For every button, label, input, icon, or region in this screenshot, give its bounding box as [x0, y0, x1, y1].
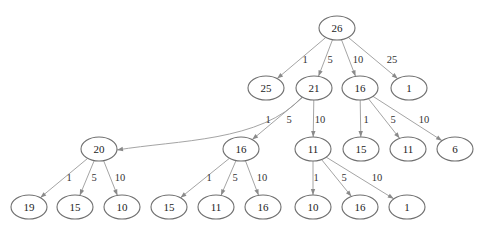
- arrowhead-icon: [117, 147, 123, 151]
- arrowhead-icon: [311, 131, 315, 137]
- tree-node: 15: [151, 195, 187, 219]
- tree-node: 11: [390, 137, 426, 161]
- tree-diagram: 15102515101510151015101510 2625211612016…: [0, 0, 484, 237]
- arrowhead-icon: [221, 189, 225, 195]
- tree-node: 21: [296, 76, 332, 100]
- edge-label: 10: [315, 114, 326, 125]
- arrowhead-icon: [254, 189, 258, 195]
- node-label: 21: [309, 82, 320, 94]
- node-label: 19: [24, 201, 36, 213]
- edge-label: 1: [302, 54, 307, 65]
- node-label: 10: [308, 201, 320, 213]
- edge-n7-n18: [322, 160, 352, 197]
- node-label: 20: [94, 143, 106, 155]
- edge-label: 10: [419, 114, 430, 125]
- edge-label: 10: [353, 54, 364, 65]
- node-label: 26: [332, 22, 344, 34]
- arrowhead-icon: [388, 194, 394, 199]
- node-label: 16: [355, 201, 367, 213]
- edge-label: 1: [66, 172, 71, 183]
- edge-label: 1: [363, 114, 368, 125]
- arrowhead-icon: [436, 136, 442, 141]
- tree-node: 10: [295, 195, 331, 219]
- tree-node: 16: [223, 137, 259, 161]
- node-label: 25: [261, 82, 273, 94]
- arrowhead-icon: [318, 70, 322, 76]
- tree-node: 10: [104, 195, 140, 219]
- edge-line: [252, 97, 303, 139]
- edge-n2-n6: [252, 97, 303, 139]
- edge-line: [322, 160, 352, 197]
- tree-node: 15: [57, 195, 93, 219]
- tree-node: 11: [295, 137, 331, 161]
- edge-label: 5: [91, 172, 96, 183]
- tree-node: 16: [245, 195, 281, 219]
- edge-label: 10: [257, 172, 268, 183]
- tree-node: 6: [437, 137, 473, 161]
- tree-node: 26: [319, 16, 355, 40]
- node-label: 15: [356, 143, 368, 155]
- arrowhead-icon: [80, 189, 84, 195]
- tree-node: 16: [342, 76, 378, 100]
- node-label: 1: [406, 82, 412, 94]
- arrowhead-icon: [351, 70, 355, 76]
- edge-label: 1: [313, 172, 318, 183]
- tree-node: 1: [389, 195, 425, 219]
- edge-line: [117, 97, 302, 150]
- tree-node: 20: [81, 137, 117, 161]
- node-label: 15: [70, 201, 82, 213]
- node-label: 10: [117, 201, 129, 213]
- tree-node: 1: [391, 76, 427, 100]
- edge-label: 1: [206, 172, 211, 183]
- tree-node: 11: [198, 195, 234, 219]
- edge-n3-n8: [359, 100, 363, 137]
- edge-labels-layer: 15102515101510151015101510: [66, 54, 429, 183]
- edge-label: 5: [327, 54, 332, 65]
- edge-n3-n10: [373, 96, 442, 140]
- edge-label: 5: [390, 114, 395, 125]
- node-label: 1: [404, 201, 410, 213]
- tree-node: 16: [342, 195, 378, 219]
- edge-n2-n5: [117, 97, 302, 151]
- tree-node: 15: [343, 137, 379, 161]
- edge-label: 10: [115, 172, 126, 183]
- node-label: 11: [403, 143, 414, 155]
- arrowhead-icon: [113, 189, 117, 195]
- edge-label: 25: [387, 54, 398, 65]
- nodes-layer: 2625211612016111511619151015111610161: [11, 16, 473, 219]
- node-label: 11: [211, 201, 222, 213]
- arrowhead-icon: [311, 189, 315, 195]
- edge-label: 1: [265, 114, 270, 125]
- edge-label: 5: [232, 172, 237, 183]
- node-label: 15: [164, 201, 176, 213]
- node-label: 16: [258, 201, 270, 213]
- edge-label: 10: [372, 172, 383, 183]
- node-label: 16: [236, 143, 248, 155]
- tree-node: 25: [248, 76, 284, 100]
- arrowhead-icon: [359, 131, 363, 137]
- node-label: 6: [452, 143, 458, 155]
- node-label: 11: [308, 143, 319, 155]
- node-label: 16: [355, 82, 367, 94]
- edge-label: 5: [341, 172, 346, 183]
- tree-node: 19: [11, 195, 47, 219]
- edge-label: 5: [286, 114, 291, 125]
- edge-line: [373, 96, 442, 140]
